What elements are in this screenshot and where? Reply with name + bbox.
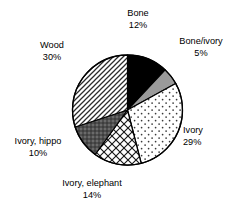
pie-label-ivory-percent: 29% (183, 137, 227, 149)
pie-label-bone: Bone 12% (108, 8, 168, 31)
pie-label-wood-name: Wood (26, 40, 78, 52)
pie-label-bone-ivory-name: Bone/ivory (168, 36, 234, 48)
pie-chart-figure: Bone 12% Bone/ivory 5% Ivory 29% Ivory, … (0, 0, 236, 216)
pie-label-ivory-hippo-name: Ivory, hippo (2, 136, 74, 148)
pie-label-ivory-hippo: Ivory, hippo 10% (2, 136, 74, 159)
pie-label-ivory-name: Ivory (183, 125, 227, 137)
pie-label-ivory: Ivory 29% (183, 125, 227, 148)
pie-label-wood: Wood 30% (26, 40, 78, 63)
pie-label-bone-name: Bone (108, 8, 168, 20)
pie-label-wood-percent: 30% (26, 52, 78, 64)
pie-label-bone-percent: 12% (108, 20, 168, 32)
pie-label-ivory-elephant: Ivory, elephant 14% (36, 178, 148, 201)
pie-label-ivory-hippo-percent: 10% (2, 148, 74, 160)
pie-label-bone-ivory: Bone/ivory 5% (168, 36, 234, 59)
pie-label-ivory-elephant-name: Ivory, elephant (36, 178, 148, 190)
pie-label-ivory-elephant-percent: 14% (36, 190, 148, 202)
pie-label-bone-ivory-percent: 5% (168, 48, 234, 60)
